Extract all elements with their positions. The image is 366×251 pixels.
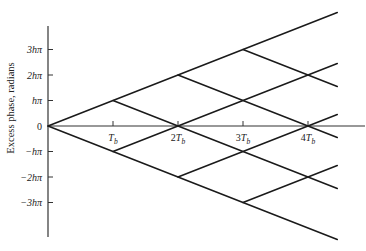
y-tick-label: hπ — [32, 95, 43, 106]
phase-trellis-diagram: 3hπ2hπhπ0−hπ−2hπ−3hπ Tb2Tb3Tb4Tb Excess … — [0, 0, 366, 251]
trellis-path-branch-from-2-hpi-down — [178, 75, 337, 138]
y-axis-title: Excess phase, radians — [5, 62, 16, 153]
y-tick-label: 2hπ — [27, 70, 43, 81]
x-ticks: Tb2Tb3Tb4Tb — [108, 121, 315, 146]
y-tick-label: 3hπ — [26, 44, 43, 55]
axes — [48, 26, 365, 237]
trellis-path-branch-from-neg3-hpi-up — [243, 166, 337, 203]
trellis-path-branch-from-3-hpi-down — [243, 50, 337, 87]
y-tick-label: −3hπ — [20, 197, 43, 208]
y-tick-label: −2hπ — [20, 172, 43, 183]
x-tick-label: 2Tb — [171, 132, 186, 146]
y-tick-label: −hπ — [25, 146, 43, 157]
x-tick-label: 4Tb — [301, 132, 316, 146]
x-tick-label: Tb — [108, 132, 118, 146]
y-tick-label: 0 — [37, 121, 42, 132]
x-tick-label: 3Tb — [236, 132, 251, 146]
trellis-path-branch-from-1-hpi-down — [113, 101, 337, 189]
